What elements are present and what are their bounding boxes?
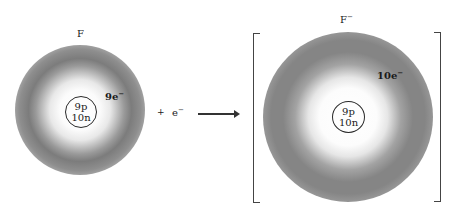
electron-count-fluoride-text: 10e bbox=[377, 70, 397, 81]
left-bracket bbox=[253, 33, 260, 203]
reaction-arrow-icon bbox=[198, 113, 238, 115]
nucleus-f-protons: 9p bbox=[75, 101, 88, 112]
nucleus-f-neutrons: 10n bbox=[71, 112, 90, 123]
nucleus-f: 9p 10n bbox=[65, 96, 97, 128]
electron-count-fluoride: 10e− bbox=[377, 70, 403, 81]
added-electron: e− bbox=[172, 107, 184, 118]
nucleus-fluoride-protons: 9p bbox=[342, 106, 355, 117]
nucleus-fluoride-neutrons: 10n bbox=[339, 117, 358, 128]
reactant-symbol: F bbox=[77, 28, 84, 39]
product-symbol-text: F bbox=[340, 14, 347, 25]
added-electron-sup: − bbox=[178, 106, 184, 114]
product-charge: − bbox=[347, 13, 353, 21]
electron-count-f-text: 9e bbox=[105, 91, 118, 102]
right-bracket bbox=[434, 32, 441, 202]
nucleus-fluoride: 9p 10n bbox=[332, 101, 365, 133]
electron-count-fluoride-sup: − bbox=[397, 68, 403, 77]
plus-sign: + bbox=[157, 107, 165, 117]
plus-sign-text: + bbox=[157, 107, 165, 117]
product-symbol: F− bbox=[340, 14, 353, 25]
electron-count-f-sup: − bbox=[118, 89, 124, 98]
reactant-symbol-text: F bbox=[77, 28, 84, 39]
electron-count-f: 9e− bbox=[105, 91, 124, 102]
